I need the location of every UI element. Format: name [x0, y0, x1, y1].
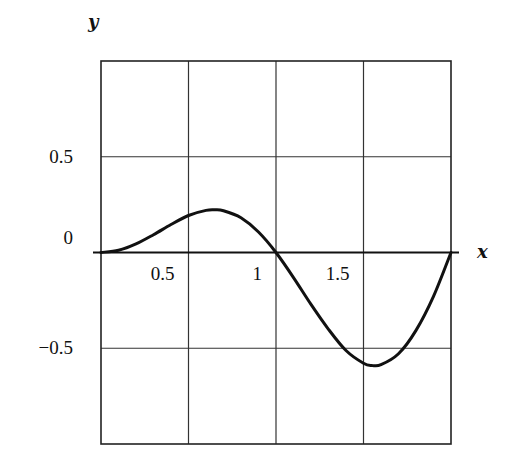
y-axis-label: y [87, 11, 100, 32]
y-tick-labels: 0.50−0.5 [39, 146, 73, 359]
x-tick-label: 1.5 [326, 263, 350, 284]
y-tick-label: 0.5 [49, 146, 73, 167]
x-tick-labels: 0.511.5 [151, 263, 350, 284]
y-tick-label: −0.5 [39, 337, 73, 358]
x-tick-label: 0.5 [151, 263, 175, 284]
y-tick-label: 0 [64, 227, 74, 248]
x-axis-label: x [476, 241, 488, 262]
chart: 0.511.5 0.50−0.5 x y [0, 0, 510, 475]
x-tick-label: 1 [253, 263, 263, 284]
